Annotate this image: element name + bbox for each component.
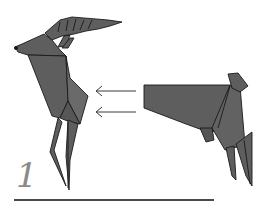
baseline-divider: [14, 199, 214, 201]
step-number: 1: [16, 158, 38, 192]
deer-hind-leg-left: [226, 146, 236, 180]
deer-neck: [28, 55, 68, 118]
deer-hind-thigh: [200, 128, 214, 142]
assembly-arrows: [96, 86, 136, 117]
origami-step-diagram: 1: [0, 0, 275, 205]
antler-icon: [45, 17, 122, 48]
arrow-left-icon: [96, 107, 136, 117]
origami-deer-back-half: [144, 73, 252, 186]
deer-front-leg-left: [50, 118, 66, 186]
arrow-left-icon: [96, 86, 136, 96]
